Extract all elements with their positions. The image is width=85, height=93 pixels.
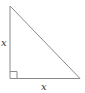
right-angle-marker bbox=[10, 72, 17, 79]
bottom-leg-label: x bbox=[41, 81, 47, 92]
triangle-diagram: x x bbox=[0, 0, 85, 93]
right-triangle bbox=[10, 6, 80, 79]
left-leg-label: x bbox=[1, 37, 7, 48]
